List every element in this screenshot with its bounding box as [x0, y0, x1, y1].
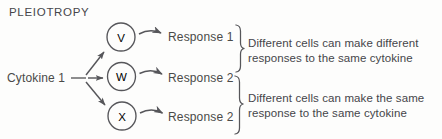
edge-v-to-response-1 — [139, 31, 161, 34]
edge-cytokine-to-x — [86, 82, 105, 105]
annotation-same-line-1: Different cells can make the same — [248, 92, 424, 104]
pleiotropy-figure: V W X PLEIOTROPY Cytokine 1 Response 1 R… — [0, 0, 442, 139]
edge-cytokine-to-v — [86, 52, 104, 75]
brace-upper — [236, 25, 245, 72]
response-label-2: Response 2 — [168, 71, 234, 85]
response-label-3: Response 2 — [168, 110, 234, 124]
cytokine-source-label: Cytokine 1 — [7, 71, 65, 85]
cell-label-x: X — [118, 111, 126, 123]
edge-x-to-response-3 — [140, 110, 163, 113]
response-label-1: Response 1 — [168, 30, 234, 44]
annotation-same-line-2: response to the same cytokine — [248, 107, 407, 119]
cell-label-w: W — [116, 71, 127, 83]
annotation-different-line-2: responses to the same cytokine — [248, 52, 413, 64]
brace-lower — [235, 76, 244, 134]
edge-w-to-response-2 — [140, 71, 163, 74]
annotation-different-line-1: Different cells can make different — [248, 37, 418, 49]
cell-label-v: V — [117, 32, 125, 44]
figure-title: PLEIOTROPY — [9, 6, 90, 18]
